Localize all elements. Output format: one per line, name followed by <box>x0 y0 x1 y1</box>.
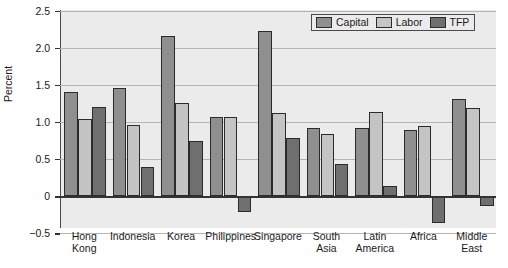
bar-tfp-south-asia <box>335 164 349 196</box>
bar-labor-indonesia <box>127 125 141 196</box>
x-tick-label-line: Korea <box>157 231 205 243</box>
x-tick-label-africa: Africa <box>399 231 447 243</box>
legend-item-capital[interactable]: Capital <box>316 17 369 28</box>
x-tick-label-indonesia: Indonesia <box>108 231 156 243</box>
x-tick-label-line: Middle <box>448 231 496 243</box>
x-tick-label-line: Singapore <box>254 231 302 243</box>
y-tick-mark <box>55 11 60 13</box>
bar-labor-singapore <box>272 113 286 196</box>
bar-capital-middle-east <box>452 99 466 196</box>
legend-label-tfp: TFP <box>450 17 470 28</box>
x-tick-label-line: East <box>448 243 496 255</box>
bar-capital-latin-america <box>355 128 369 196</box>
x-tick-label-korea: Korea <box>157 231 205 243</box>
legend-swatch-tfp <box>430 17 446 28</box>
bar-chart: 2.52.01.51.00.50−0.5HongKongIndonesiaKor… <box>0 0 508 268</box>
bar-capital-south-asia <box>307 128 321 196</box>
y-tick-label: 1.0 <box>14 117 50 127</box>
legend-label-capital: Capital <box>336 17 369 28</box>
bar-labor-hong-kong <box>78 119 92 196</box>
y-axis-title: Percent <box>2 54 14 114</box>
x-tick-label-philippines: Philippines <box>205 231 253 243</box>
y-tick-mark <box>55 159 60 161</box>
x-tick-label-south-asia: SouthAsia <box>302 231 350 254</box>
legend-swatch-labor <box>376 17 392 28</box>
gridline <box>60 11 496 12</box>
legend-swatch-capital <box>316 17 332 28</box>
bar-tfp-philippines <box>238 196 252 212</box>
bar-labor-korea <box>175 103 189 196</box>
bar-capital-korea <box>161 36 175 196</box>
bar-tfp-singapore <box>286 138 300 196</box>
y-tick-mark <box>55 85 60 87</box>
x-tick-label-line: South <box>302 231 350 243</box>
bar-tfp-hong-kong <box>92 107 106 196</box>
legend-item-tfp[interactable]: TFP <box>430 17 470 28</box>
bar-labor-middle-east <box>466 108 480 196</box>
bar-tfp-latin-america <box>383 186 397 196</box>
bar-tfp-africa <box>432 196 446 223</box>
bar-labor-latin-america <box>369 112 383 196</box>
y-tick-mark <box>55 122 60 124</box>
x-tick-label-line: Indonesia <box>108 231 156 243</box>
legend-label-labor: Labor <box>396 17 423 28</box>
y-tick-label: 1.5 <box>14 80 50 90</box>
x-tick-label-middle-east: MiddleEast <box>448 231 496 254</box>
bar-capital-indonesia <box>113 88 127 196</box>
x-tick-label-line: Philippines <box>205 231 253 243</box>
legend-item-labor[interactable]: Labor <box>376 17 423 28</box>
x-tick-label-line: Africa <box>399 231 447 243</box>
gridline <box>60 48 496 49</box>
bar-labor-south-asia <box>321 134 335 196</box>
gridline <box>60 85 496 86</box>
bar-labor-africa <box>418 126 432 196</box>
bar-capital-singapore <box>258 31 272 196</box>
bar-tfp-indonesia <box>141 167 155 196</box>
bar-labor-philippines <box>224 117 238 196</box>
y-tick-label: 2.5 <box>14 6 50 16</box>
y-tick-label: 2.0 <box>14 43 50 53</box>
y-tick-label: 0 <box>14 191 50 201</box>
x-tick-label-latin-america: LatinAmerica <box>351 231 399 254</box>
x-tick-label-line: Hong <box>60 231 108 243</box>
bar-capital-philippines <box>210 117 224 196</box>
x-tick-label-hong-kong: HongKong <box>60 231 108 254</box>
x-tick-label-line: America <box>351 243 399 255</box>
chart-legend: Capital Labor TFP <box>311 14 475 31</box>
y-tick-label: −0.5 <box>14 228 50 238</box>
x-tick-label-line: Latin <box>351 231 399 243</box>
y-tick-label: 0.5 <box>14 154 50 164</box>
x-tick-label-line: Kong <box>60 243 108 255</box>
x-tick-label-singapore: Singapore <box>254 231 302 243</box>
zero-axis-line <box>58 196 496 198</box>
x-tick-label-line: Asia <box>302 243 350 255</box>
bar-capital-hong-kong <box>64 92 78 196</box>
bar-tfp-korea <box>189 141 203 196</box>
bar-tfp-middle-east <box>480 196 494 206</box>
y-tick-mark <box>55 48 60 50</box>
bar-capital-africa <box>404 130 418 196</box>
